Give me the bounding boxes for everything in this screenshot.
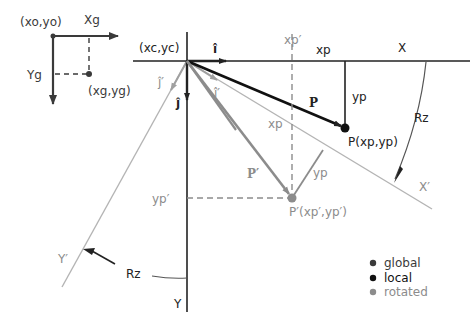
local-xp-label: xp bbox=[316, 43, 331, 57]
legend-label-local: local bbox=[384, 271, 412, 285]
rotated-unit-j bbox=[171, 61, 187, 90]
yp-prime-label: yp′ bbox=[152, 192, 170, 206]
legend-label-rotated: rotated bbox=[384, 285, 428, 299]
local-point-label: P(xp,yp) bbox=[348, 135, 398, 149]
rz-arrow-left-shaft bbox=[92, 251, 115, 264]
local-vector-label: P bbox=[309, 96, 318, 110]
rz-arc-left bbox=[152, 276, 187, 278]
rz-label-right: Rz bbox=[414, 111, 429, 125]
coordinate-frames-diagram: (xo,yo) Xg Yg (xg,yg) î′ ĵ′ X′ Y′ (xc,yc… bbox=[0, 0, 471, 327]
global-y-label: Yg bbox=[26, 68, 42, 82]
legend-dot-local bbox=[370, 275, 376, 281]
legend-item-global: global bbox=[370, 256, 421, 270]
legend-item-rotated: rotated bbox=[370, 285, 428, 299]
rotated-xp-label: xp bbox=[268, 117, 283, 131]
rz-arrow-right bbox=[394, 166, 403, 183]
rotated-y-label: Y′ bbox=[57, 252, 68, 266]
local-unit-i-label: î bbox=[212, 42, 218, 56]
local-unit-j-label: ĵ bbox=[175, 96, 181, 110]
global-origin-dot bbox=[51, 34, 56, 39]
rz-arrow-left bbox=[83, 248, 95, 255]
xp-prime-label: xp′ bbox=[284, 33, 302, 47]
rotated-yp-label: yp bbox=[313, 166, 328, 180]
local-yp-label: yp bbox=[352, 90, 367, 104]
global-origin-label: (xo,yo) bbox=[20, 15, 62, 29]
legend-dot-global bbox=[370, 260, 376, 266]
legend-label-global: global bbox=[384, 256, 421, 270]
local-origin-label: (xc,yc) bbox=[139, 41, 179, 55]
global-x-label: Xg bbox=[84, 13, 100, 27]
legend-item-local: local bbox=[370, 271, 412, 285]
legend: global local rotated bbox=[370, 256, 428, 299]
global-point-label: (xg,yg) bbox=[88, 84, 131, 98]
local-x-label: X bbox=[398, 41, 406, 55]
rz-label-left: Rz bbox=[126, 267, 141, 281]
rotated-x-label: X′ bbox=[419, 180, 430, 194]
global-point-dot bbox=[86, 71, 92, 77]
rotated-vector-label: P′ bbox=[247, 167, 259, 181]
rotated-unit-j-label: ĵ′ bbox=[157, 75, 164, 89]
local-point-dot bbox=[341, 124, 350, 133]
legend-dot-rotated bbox=[370, 289, 376, 295]
local-frame: (xc,yc) î ĵ X Y bbox=[133, 32, 470, 312]
rotated-point-dot bbox=[288, 194, 297, 203]
rotated-point-label: P′(xp′,yp′) bbox=[289, 205, 347, 219]
local-y-label: Y bbox=[173, 297, 182, 311]
global-frame: (xo,yo) Xg Yg (xg,yg) bbox=[20, 13, 131, 104]
diagram-canvas: (xo,yo) Xg Yg (xg,yg) î′ ĵ′ X′ Y′ (xc,yc… bbox=[0, 0, 471, 327]
